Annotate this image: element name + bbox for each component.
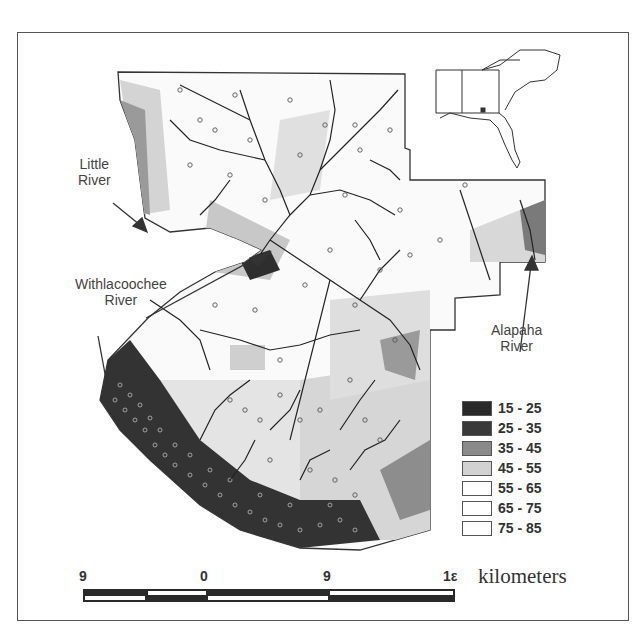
legend: 15 - 25 25 - 35 35 - 45 45 - 55 55 - 65 … (462, 398, 542, 538)
legend-swatch (462, 521, 492, 536)
scale-tick-label: 0 (200, 568, 208, 584)
legend-swatch (462, 441, 492, 456)
scale-unit-label: kilometers (478, 564, 567, 589)
legend-label: 15 - 25 (498, 400, 542, 416)
legend-swatch (462, 401, 492, 416)
scale-bar (83, 589, 455, 602)
label-line: River (491, 338, 542, 354)
legend-label: 65 - 75 (498, 500, 542, 516)
label-little-river: Little River (78, 156, 111, 188)
label-alapaha-river: Alapaha River (491, 322, 542, 354)
legend-swatch (462, 481, 492, 496)
label-withlacoochee-river: Withlacoochee River (75, 276, 167, 308)
legend-item: 75 - 85 (462, 518, 542, 538)
scale-tick-label: 1ε (443, 568, 457, 584)
study-area-map (0, 0, 639, 642)
scale-tick-label: 9 (323, 568, 331, 584)
legend-label: 55 - 65 (498, 480, 542, 496)
scale-tick-label: 9 (79, 568, 87, 584)
legend-item: 55 - 65 (462, 478, 542, 498)
legend-item: 15 - 25 (462, 398, 542, 418)
legend-item: 25 - 35 (462, 418, 542, 438)
legend-label: 45 - 55 (498, 460, 542, 476)
legend-item: 45 - 55 (462, 458, 542, 478)
label-line: Little (78, 156, 111, 172)
label-line: River (75, 292, 167, 308)
label-line: Alapaha (491, 322, 542, 338)
legend-item: 35 - 45 (462, 438, 542, 458)
legend-label: 25 - 35 (498, 420, 542, 436)
label-line: River (78, 172, 111, 188)
label-line: Withlacoochee (75, 276, 167, 292)
legend-swatch (462, 501, 492, 516)
legend-swatch (462, 421, 492, 436)
legend-swatch (462, 461, 492, 476)
legend-label: 75 - 85 (498, 520, 542, 536)
inset-locator-map (436, 50, 560, 168)
legend-label: 35 - 45 (498, 440, 542, 456)
legend-item: 65 - 75 (462, 498, 542, 518)
